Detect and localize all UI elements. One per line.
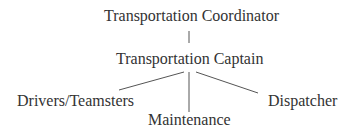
connector-captain-dispatcher bbox=[196, 72, 258, 93]
node-drivers-teamsters: Drivers/Teamsters bbox=[17, 92, 134, 110]
node-maintenance: Maintenance bbox=[148, 111, 231, 129]
connector-captain-drivers bbox=[119, 72, 184, 90]
node-transportation-captain: Transportation Captain bbox=[116, 50, 263, 68]
node-dispatcher: Dispatcher bbox=[268, 92, 337, 110]
node-transportation-coordinator: Transportation Coordinator bbox=[104, 7, 279, 25]
